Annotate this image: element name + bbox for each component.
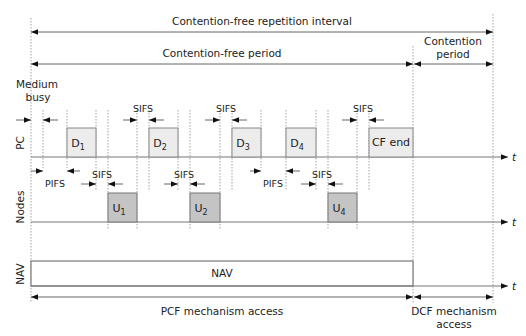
frame-label: D: [71, 137, 79, 150]
pc-frame-cf-end: CF end: [369, 128, 413, 157]
pifs-label: PIFS: [263, 178, 283, 189]
node-sifs-2: SIFS: [164, 169, 205, 184]
pc-frame-d4: D4: [286, 128, 316, 157]
pifs-label: PIFS: [45, 178, 65, 189]
frame-label: D: [153, 137, 161, 150]
cp-label-line1: Contention: [424, 35, 482, 47]
row-label-nodes: Nodes: [14, 191, 26, 224]
pc-frame-d1: D1: [67, 128, 96, 157]
node-sifs-1: SIFS: [81, 169, 123, 184]
node-frame-u1: U1: [108, 193, 137, 222]
nav-label: NAV: [211, 267, 233, 279]
frame-subscript: 4: [340, 208, 345, 217]
nav-box: NAV: [31, 261, 413, 286]
nav-time-axis-label: t: [512, 280, 517, 292]
dcf-access-label-line2: access: [436, 318, 471, 330]
row-label-pc: PC: [14, 136, 26, 150]
cp-label-line2: period: [436, 48, 469, 60]
sifs-label: SIFS: [216, 103, 236, 114]
dcf-access-label-line1: DCF mechanism: [411, 305, 497, 317]
sifs-label: SIFS: [353, 103, 373, 114]
node-frame-u2: U2: [190, 193, 220, 222]
pcf-timing-diagram: Contention-free repetition interval Cont…: [0, 0, 526, 336]
sifs-label: SIFS: [174, 169, 194, 180]
pc-frame-d3: D3: [232, 128, 261, 157]
cfp-label: Contention-free period: [162, 47, 281, 59]
node-frame-u4: U4: [328, 193, 357, 222]
pc-frame-d2: D2: [149, 128, 178, 157]
frame-label: CF end: [372, 136, 410, 149]
frame-subscript: 1: [80, 143, 85, 152]
frame-label: U: [332, 202, 340, 215]
frame-subscript: 2: [202, 208, 207, 217]
pifs-2: PIFS: [250, 171, 300, 189]
pc-time-axis-label: t: [512, 151, 517, 163]
sifs-label: SIFS: [92, 169, 112, 180]
medium-busy-line2: busy: [25, 91, 50, 103]
node-sifs-3: SIFS: [301, 169, 343, 184]
pc-sifs-3: SIFS: [342, 103, 384, 120]
row-label-nav: NAV: [14, 262, 26, 284]
frame-subscript: 2: [162, 143, 167, 152]
repetition-interval-label: Contention-free repetition interval: [172, 15, 352, 27]
pc-sifs-1: SIFS: [123, 103, 164, 120]
frame-label: D: [236, 137, 244, 150]
frame-subscript: 3: [245, 143, 250, 152]
sifs-label: SIFS: [133, 103, 153, 114]
nodes-time-axis-label: t: [512, 216, 517, 228]
frame-subscript: 4: [299, 143, 304, 152]
frame-subscript: 1: [120, 208, 125, 217]
frame-label: U: [194, 202, 202, 215]
frame-label: U: [112, 202, 120, 215]
medium-busy-line1: Medium: [16, 78, 58, 90]
pcf-access-label: PCF mechanism access: [161, 305, 284, 317]
pifs-1: PIFS: [31, 171, 80, 189]
sifs-label: SIFS: [312, 169, 332, 180]
frame-label: D: [290, 137, 298, 150]
pc-sifs-2: SIFS: [205, 103, 247, 120]
